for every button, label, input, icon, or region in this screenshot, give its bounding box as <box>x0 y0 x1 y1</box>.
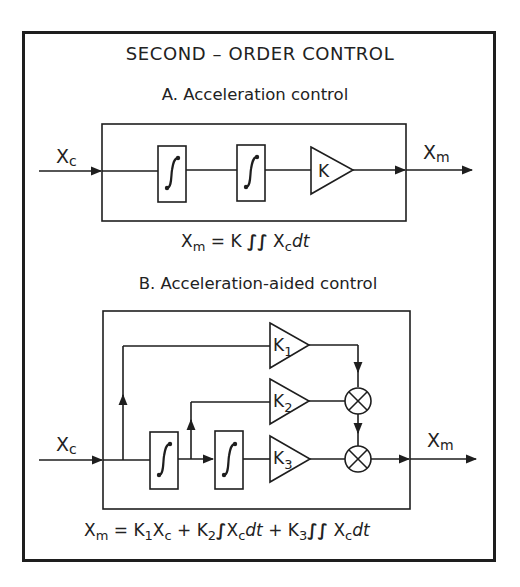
section-b-output-label: Xm <box>427 429 454 453</box>
integral-icon <box>246 157 257 187</box>
gain-k1-label: K1 <box>273 335 292 359</box>
gain-k3-label: K3 <box>273 448 292 472</box>
integral-icon <box>159 444 170 475</box>
integral-icon <box>167 158 178 188</box>
gain-k2-label: K2 <box>273 391 292 415</box>
section-a-system-box <box>102 124 406 221</box>
section-a-equation: Xm = K ∫∫ Xcdt <box>181 231 309 254</box>
section-a-input-label: Xc <box>56 145 77 169</box>
section-b-input-label: Xc <box>56 433 77 457</box>
section-b-equation: Xm = K1Xc + K2∫Xcdt + K3∫∫ Xcdt <box>84 520 370 543</box>
section-b-system-box <box>103 311 410 509</box>
integral-icon <box>224 444 235 475</box>
block-diagram: K K1 K2 K3 <box>0 0 520 587</box>
gain-k-label: K <box>318 161 330 181</box>
section-a-output-label: Xm <box>423 141 450 165</box>
